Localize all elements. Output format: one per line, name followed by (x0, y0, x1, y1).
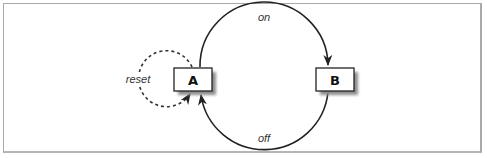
edge-on: on (200, 2, 328, 67)
node-b-label: B (330, 73, 340, 88)
edge-label-off: off (258, 132, 271, 144)
node-a: A (174, 68, 216, 95)
edge-off: off (201, 92, 328, 150)
edge-label-reset: reset (126, 73, 151, 85)
node-b: B (316, 68, 358, 95)
state-diagram: reset on off A B (0, 0, 487, 158)
node-a-label: A (188, 73, 198, 88)
edge-label-on: on (258, 11, 270, 23)
